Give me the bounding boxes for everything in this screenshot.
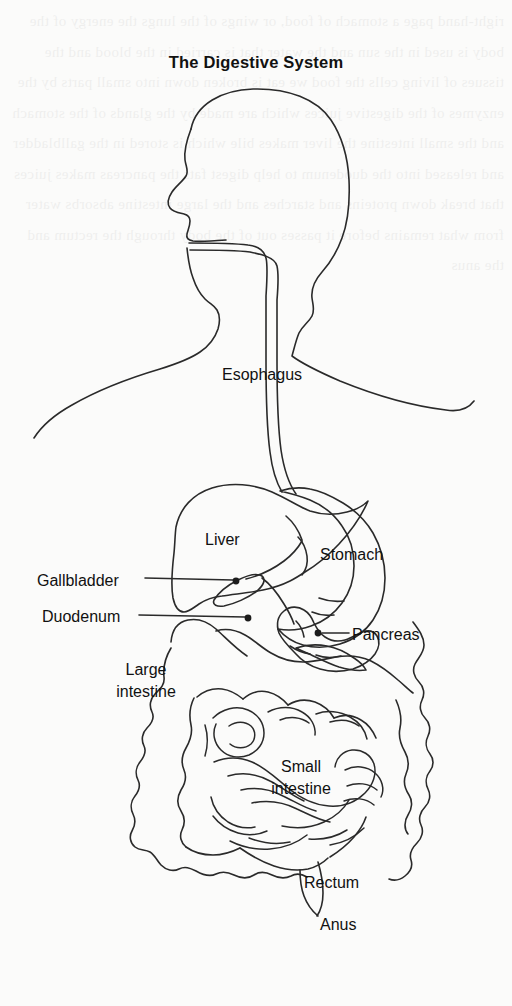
label-small-intestine-line1: Small: [253, 756, 349, 778]
label-large-intestine-line2: intestine: [98, 681, 194, 703]
label-pancreas: Pancreas: [352, 624, 420, 646]
label-gallbladder: Gallbladder: [37, 570, 119, 592]
gallbladder-leader-line: [145, 578, 233, 580]
pancreas-leader-dot: [315, 630, 322, 637]
label-stomach: Stomach: [320, 544, 383, 566]
liver-fissure: [246, 541, 302, 579]
label-rectum: Rectum: [304, 872, 359, 894]
label-anus: Anus: [320, 914, 356, 936]
label-large-intestine: Large intestine: [98, 659, 194, 702]
figure-page: right-hand page a stomach of food, or wi…: [0, 0, 512, 1006]
bile-duct: [262, 578, 294, 624]
label-esophagus: Esophagus: [222, 364, 302, 386]
large-intestine-haustra: [197, 689, 376, 738]
rectum-anus-outline: [300, 817, 366, 916]
duodenum-leader-line: [139, 615, 245, 617]
body-profile-outline: [34, 89, 474, 438]
label-duodenum: Duodenum: [42, 606, 120, 628]
gallbladder-leader-dot: [233, 578, 240, 585]
leader-lines: [139, 578, 349, 637]
label-liver: Liver: [205, 529, 240, 551]
digestive-system-illustration: [0, 0, 512, 1006]
label-large-intestine-line1: Large: [98, 659, 194, 681]
label-small-intestine-line2: intestine: [253, 778, 349, 800]
label-small-intestine: Small intestine: [253, 756, 349, 799]
duodenum-leader-dot: [245, 615, 252, 622]
